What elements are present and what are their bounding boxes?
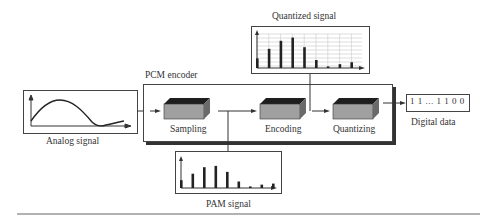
block-front: [333, 104, 373, 119]
signal-bar: [350, 62, 353, 68]
encoder-label: PCM encoder: [145, 70, 198, 80]
block-top: [260, 98, 306, 104]
digital-data-label: Digital data: [411, 117, 456, 127]
analog-signal-box: [24, 91, 138, 134]
block-top: [164, 98, 210, 104]
digital-data-value: 1 1 ... 1 1 0 0: [410, 96, 465, 106]
encoding-block: [260, 98, 306, 119]
sampling-block: [164, 98, 210, 119]
block-front: [260, 104, 300, 119]
arrowhead: [400, 101, 406, 105]
pam-signal-label: PAM signal: [206, 199, 251, 209]
analog-signal-label: Analog signal: [46, 136, 99, 146]
signal-bar: [180, 180, 183, 188]
block-front: [164, 104, 204, 119]
signal-bar: [261, 185, 264, 188]
signal-bar: [256, 58, 259, 68]
signal-bar: [226, 172, 229, 188]
sampling-label: Sampling: [170, 124, 206, 134]
signal-bar: [215, 166, 218, 188]
signal-bar: [249, 186, 252, 188]
signal-bar: [315, 60, 318, 68]
quantizing-block: [333, 98, 379, 119]
signal-bar: [280, 41, 283, 68]
signal-bar: [303, 47, 306, 68]
signal-bar: [238, 182, 241, 189]
pcm-diagram: [0, 0, 499, 224]
quantizing-label: Quantizing: [333, 124, 375, 134]
block-top: [333, 98, 379, 104]
encoding-label: Encoding: [265, 124, 301, 134]
signal-bar: [203, 167, 206, 188]
quantized-signal-label: Quantized signal: [272, 11, 336, 21]
signal-bar: [272, 184, 275, 188]
signal-bar: [192, 174, 195, 188]
signal-bar: [291, 38, 294, 68]
signal-bar: [327, 66, 330, 68]
signal-bar: [339, 64, 342, 68]
signal-bar: [268, 49, 271, 68]
